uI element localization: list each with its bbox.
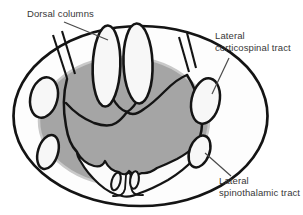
label-lateral-corticospinal-tract: Lateral corticospinal tract	[215, 30, 291, 53]
label-spinothalamic-line1: Lateral	[219, 175, 300, 187]
label-spinothalamic-line2: spinothalamic tract	[219, 187, 300, 199]
label-corticospinal-line1: Lateral	[215, 30, 291, 42]
label-lateral-spinothalamic-tract: Lateral spinothalamic tract	[219, 175, 300, 198]
label-dorsal-columns: Dorsal columns	[27, 8, 94, 20]
label-corticospinal-line2: corticospinal tract	[215, 42, 291, 54]
spinal-cord-diagram: Dorsal columns Lateral corticospinal tra…	[0, 0, 303, 215]
